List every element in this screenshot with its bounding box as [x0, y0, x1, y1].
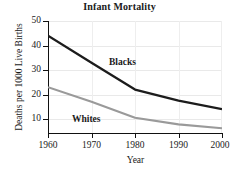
x-axis-tick: [48, 134, 49, 138]
y-axis-tick-label: 30: [19, 65, 41, 75]
y-axis-tick-label: 40: [19, 41, 41, 51]
series-label-whites: Whites: [72, 114, 101, 124]
chart-screenshot: Infant Mortality Deaths per 1000 Live Bi…: [0, 0, 239, 179]
y-axis-tick-label: 10: [19, 114, 41, 124]
line-series-blacks: [48, 36, 222, 110]
y-axis-tick-label: 20: [19, 90, 41, 100]
x-axis-tick-label: 1980: [115, 140, 155, 150]
x-axis-tick-label: 1970: [72, 140, 112, 150]
x-axis-tick-label: 1990: [159, 140, 199, 150]
series-label-blacks: Blacks: [109, 57, 136, 67]
x-axis-title: Year: [48, 155, 223, 165]
y-axis-tick-labels: 50 40 30 20 10: [17, 0, 41, 179]
x-axis-tick: [135, 134, 136, 138]
y-axis-tick-label: 50: [19, 16, 41, 26]
x-axis-tick-label: 1960: [28, 140, 68, 150]
x-axis-tick-label: 2000: [200, 140, 239, 150]
x-axis-tick: [92, 134, 93, 138]
x-axis-tick: [179, 134, 180, 138]
x-axis-tick: [222, 134, 223, 138]
